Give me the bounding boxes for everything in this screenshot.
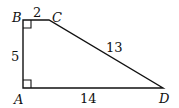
- trapezoid-ABCD: [23, 20, 163, 88]
- right-angle-mark-A: [23, 80, 31, 88]
- vertex-label-b: B: [11, 10, 22, 25]
- side-length-bc: 2: [33, 5, 41, 20]
- trapezoid-diagram: B 2 C 13 5 A 14 D: [0, 0, 179, 108]
- side-length-ab: 5: [11, 49, 19, 64]
- vertex-label-a: A: [13, 92, 23, 107]
- side-length-cd: 13: [106, 40, 123, 55]
- right-angle-mark-B: [23, 20, 31, 28]
- vertex-label-d: D: [158, 91, 170, 106]
- vertex-label-c: C: [52, 10, 62, 25]
- side-length-ad: 14: [80, 91, 97, 106]
